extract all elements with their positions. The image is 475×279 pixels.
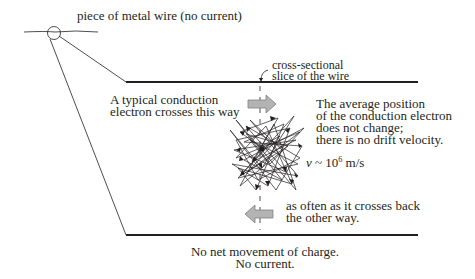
zoom-line-bottom	[50, 39, 126, 235]
bottom-right-label: as often as it crosses back the other wa…	[286, 200, 420, 224]
speed-label: v ~ 106 m/s	[306, 154, 364, 169]
speed-base: 10	[325, 155, 338, 170]
slice-label: cross-sectional slice of the wire	[272, 60, 349, 82]
caption: No net movement of charge. No current.	[180, 246, 350, 270]
magnify-circle	[48, 27, 61, 40]
right-label-line-4: there is no drift velocity.	[316, 134, 452, 146]
metal-wire	[24, 31, 98, 32]
speed-var: v	[306, 155, 312, 170]
electron-dot	[259, 146, 264, 151]
left-top-line-2: electron crosses this way	[110, 106, 240, 118]
arrow-left	[245, 205, 273, 223]
electron-random-walk	[230, 116, 304, 190]
zoom-line-top	[59, 36, 126, 82]
speed-approx: ~	[315, 155, 322, 170]
right-label: The average position of the conduction e…	[316, 98, 452, 146]
bottom-right-line-2: the other way.	[286, 212, 420, 224]
speed-unit: m/s	[346, 155, 365, 170]
speed-exp: 6	[338, 155, 342, 164]
wire-title-label: piece of metal wire (no current)	[77, 10, 242, 22]
slice-label-line-2: slice of the wire	[272, 71, 349, 82]
left-top-label: A typical conduction electron crosses th…	[110, 94, 240, 118]
caption-line-2: No current.	[180, 258, 350, 270]
arrow-right	[248, 95, 276, 113]
